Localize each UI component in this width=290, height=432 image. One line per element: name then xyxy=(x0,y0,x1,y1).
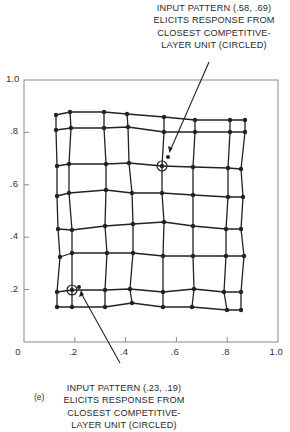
grid-column-line xyxy=(56,115,60,307)
unit-node xyxy=(70,288,74,292)
callout-line: INPUT PATTERN (.23, .19) xyxy=(58,382,190,394)
callout-line: INPUT PATTERN (.58, .69) xyxy=(148,2,280,14)
competitive-layer-grid xyxy=(54,110,247,312)
unit-node xyxy=(102,126,106,130)
unit-node xyxy=(191,254,195,258)
unit-node xyxy=(190,305,194,309)
unit-node xyxy=(162,115,166,119)
unit-node xyxy=(56,227,60,231)
y-tick-label: .6 xyxy=(10,178,18,189)
unit-node xyxy=(126,125,130,129)
y-tick-label: .4 xyxy=(10,230,18,241)
grid-column-line xyxy=(224,120,230,310)
unit-node xyxy=(105,251,109,255)
unit-node xyxy=(54,128,58,132)
unit-node xyxy=(228,130,232,134)
unit-node xyxy=(162,130,166,134)
grid-row-line xyxy=(57,289,241,292)
unit-node xyxy=(224,227,228,231)
x-tick-label: .8 xyxy=(222,346,230,357)
unit-node xyxy=(103,305,107,309)
unit-node xyxy=(242,254,246,258)
unit-node xyxy=(127,161,131,165)
unit-node xyxy=(70,251,74,255)
unit-node xyxy=(191,193,195,197)
top-callout-text: INPUT PATTERN (.58, .69) ELICITS RESPONS… xyxy=(148,2,280,52)
grid-row-line xyxy=(58,222,241,230)
unit-node xyxy=(55,290,59,294)
unit-node xyxy=(243,118,247,122)
unit-node xyxy=(222,290,226,294)
grid-row-line xyxy=(60,253,244,257)
x-tick-label: .2 xyxy=(69,346,77,357)
y-tick-label: .8 xyxy=(10,125,18,136)
unit-node xyxy=(226,166,230,170)
unit-node xyxy=(160,191,164,195)
unit-node xyxy=(241,195,245,199)
unit-node xyxy=(55,305,59,309)
unit-node xyxy=(70,305,74,309)
unit-node xyxy=(160,164,164,168)
grid-row-line xyxy=(57,190,243,197)
callout-line: CLOSEST COMPETITIVE- xyxy=(58,407,190,419)
grid-column-line xyxy=(104,112,107,307)
unit-node xyxy=(224,254,228,258)
unit-node xyxy=(193,130,197,134)
panel-label: (e) xyxy=(34,392,44,402)
unit-node xyxy=(58,255,62,259)
grid-column-line xyxy=(127,114,133,303)
unit-node xyxy=(239,290,243,294)
bottom-callout-text: INPUT PATTERN (.23, .19) ELICITS RESPONS… xyxy=(58,382,190,432)
unit-node xyxy=(192,287,196,291)
unit-node xyxy=(55,194,59,198)
unit-node xyxy=(191,165,195,169)
unit-node xyxy=(228,118,232,122)
unit-node xyxy=(69,126,73,130)
unit-node xyxy=(104,188,108,192)
plot-frame xyxy=(24,80,278,342)
unit-node xyxy=(131,222,135,226)
plot-frame-border xyxy=(24,80,278,342)
grid-row-line xyxy=(57,163,241,169)
unit-node xyxy=(191,224,195,228)
unit-node xyxy=(104,162,108,166)
grid-column-line xyxy=(192,120,195,307)
grid-row-line xyxy=(56,127,245,132)
unit-node xyxy=(243,130,247,134)
callout-line: CLOSEST COMPETITIVE- xyxy=(148,27,280,39)
unit-node xyxy=(67,162,71,166)
x-tick-label: 0 xyxy=(15,346,20,357)
grid-column-line xyxy=(241,120,245,310)
callout-line: LAYER UNIT (CIRCLED) xyxy=(58,419,190,431)
unit-node xyxy=(103,288,107,292)
grid-row-line xyxy=(56,112,245,120)
x-tick-label: .6 xyxy=(171,346,179,357)
unit-node xyxy=(130,301,134,305)
callout-line: LAYER UNIT (CIRCLED) xyxy=(148,39,280,51)
unit-node xyxy=(161,305,165,309)
input-pattern-23-19-dot xyxy=(77,285,81,289)
unit-node xyxy=(70,228,74,232)
y-tick-label: .2 xyxy=(10,283,18,294)
unit-node xyxy=(161,254,165,258)
x-tick-label: 1.0 xyxy=(270,346,283,357)
unit-node xyxy=(130,191,134,195)
unit-node xyxy=(125,112,129,116)
callout-leaders xyxy=(79,62,209,363)
unit-node xyxy=(103,224,107,228)
unit-node xyxy=(239,308,243,312)
x-tick-label: .4 xyxy=(120,346,128,357)
unit-node xyxy=(54,113,58,117)
grid-column-line xyxy=(162,117,164,307)
unit-node xyxy=(131,251,135,255)
unit-node xyxy=(193,118,197,122)
unit-node xyxy=(239,227,243,231)
unit-node xyxy=(128,287,132,291)
unit-node xyxy=(67,191,71,195)
unit-node xyxy=(102,110,106,114)
unit-node xyxy=(68,110,72,114)
unit-node xyxy=(239,167,243,171)
y-tick-label: 1.0 xyxy=(6,73,19,84)
unit-node xyxy=(161,290,165,294)
